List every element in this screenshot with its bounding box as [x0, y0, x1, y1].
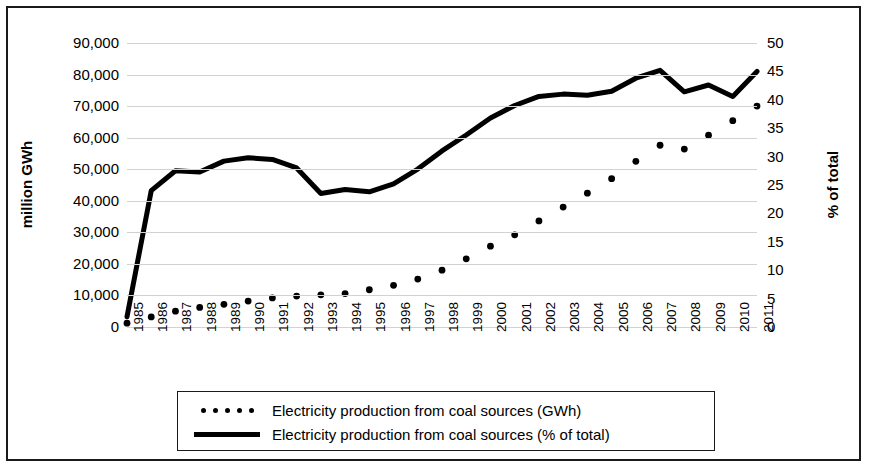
series-dot — [681, 146, 688, 153]
gridline — [127, 75, 757, 76]
series-layer — [127, 43, 757, 327]
x-tick-label: 2011 — [762, 303, 776, 332]
right-tick-label: 5 — [767, 291, 827, 306]
gridline — [127, 327, 757, 328]
series-dot — [245, 298, 252, 305]
series-dots-gwh — [124, 103, 761, 327]
left-tick-label: 90,000 — [35, 35, 119, 50]
x-tick-label: 2010 — [738, 302, 752, 332]
right-tick-label: 15 — [767, 234, 827, 249]
gridline — [127, 295, 757, 296]
x-tick-label: 2004 — [592, 302, 606, 332]
x-tick-label: 2006 — [641, 302, 655, 332]
gridline — [127, 106, 757, 107]
series-dot — [221, 301, 228, 308]
x-tick-label: 1992 — [302, 302, 316, 332]
x-tick-label: 1997 — [423, 302, 437, 332]
series-dot — [536, 218, 543, 225]
left-tick-label: 10,000 — [35, 287, 119, 302]
left-tick-label: 30,000 — [35, 224, 119, 239]
legend-item-gwh: Electricity production from coal sources… — [188, 398, 704, 422]
x-tick-label: 1998 — [447, 302, 461, 332]
x-tick-label: 1994 — [350, 302, 364, 332]
series-dot — [729, 117, 736, 124]
gridline — [127, 169, 757, 170]
right-tick-label: 45 — [767, 63, 827, 78]
gridline — [127, 138, 757, 139]
x-tick-label: 2007 — [665, 302, 679, 332]
right-tick-label: 10 — [767, 262, 827, 277]
x-tick-label: 2002 — [544, 302, 558, 332]
left-tick-label: 60,000 — [35, 130, 119, 145]
gridline — [127, 232, 757, 233]
x-tick-label: 2003 — [568, 302, 582, 332]
x-tick-label: 1985 — [132, 302, 146, 332]
right-tick-label: 20 — [767, 205, 827, 220]
x-tick-label: 2000 — [495, 302, 509, 332]
x-tick-label: 1990 — [253, 302, 267, 332]
left-tick-label: 20,000 — [35, 256, 119, 271]
gridline — [127, 201, 757, 202]
chart-legend: Electricity production from coal sources… — [177, 391, 715, 451]
series-dot — [584, 190, 591, 197]
x-tick-label: 1995 — [374, 302, 388, 332]
legend-item-percent: Electricity production from coal sources… — [188, 422, 704, 446]
chart-figure: million GWh % of total 010,00020,00030,0… — [6, 6, 861, 461]
x-tick-label: 2009 — [714, 302, 728, 332]
legend-label-gwh: Electricity production from coal sources… — [272, 402, 581, 419]
series-dot — [124, 320, 131, 327]
series-dot — [196, 304, 203, 311]
left-axis-title: million GWh — [18, 105, 35, 265]
x-tick-label: 1986 — [156, 302, 170, 332]
series-dot — [172, 308, 179, 315]
left-tick-label: 70,000 — [35, 98, 119, 113]
left-tick-label: 50,000 — [35, 161, 119, 176]
left-tick-label: 80,000 — [35, 67, 119, 82]
x-tick-label: 1996 — [399, 302, 413, 332]
x-tick-label: 1993 — [326, 302, 340, 332]
x-tick-label: 1988 — [205, 302, 219, 332]
left-tick-label: 0 — [35, 319, 119, 334]
left-tick-label: 40,000 — [35, 193, 119, 208]
series-line-percent — [127, 70, 757, 317]
x-tick-label: 1991 — [277, 302, 291, 332]
right-tick-label: 30 — [767, 149, 827, 164]
x-tick-label: 2008 — [689, 302, 703, 332]
x-tick-label: 1989 — [229, 302, 243, 332]
series-dot — [390, 282, 397, 289]
x-tick-label: 2001 — [520, 302, 534, 332]
right-tick-label: 25 — [767, 177, 827, 192]
solid-line-swatch-icon — [188, 427, 266, 441]
plot-area: 010,00020,00030,00040,00050,00060,00070,… — [127, 43, 757, 327]
series-dot — [632, 158, 639, 165]
x-tick-label: 2005 — [617, 302, 631, 332]
right-tick-label: 50 — [767, 35, 827, 50]
series-dot — [414, 276, 421, 283]
series-dot — [657, 142, 664, 149]
right-tick-label: 40 — [767, 92, 827, 107]
gridline — [127, 43, 757, 44]
right-tick-label: 35 — [767, 120, 827, 135]
series-dot — [148, 314, 155, 321]
series-dot — [439, 267, 446, 274]
right-tick-label: 0 — [767, 319, 827, 334]
x-tick-label: 1987 — [180, 302, 194, 332]
series-dot — [608, 175, 615, 182]
legend-label-percent: Electricity production from coal sources… — [272, 426, 610, 443]
series-dot — [366, 286, 373, 293]
series-dot — [463, 255, 470, 262]
series-dot — [487, 243, 494, 250]
series-dot — [560, 204, 567, 211]
dotted-line-swatch-icon — [188, 403, 266, 417]
x-tick-label: 1999 — [471, 302, 485, 332]
gridline — [127, 264, 757, 265]
